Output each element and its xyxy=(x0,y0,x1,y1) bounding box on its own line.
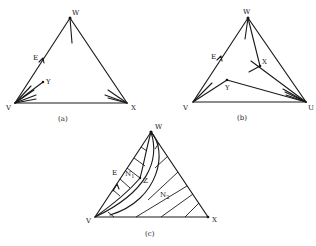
label-n2: N2 xyxy=(160,191,169,200)
hatch-n1 xyxy=(141,147,147,151)
label-e: E xyxy=(211,53,216,61)
label-n1: N1 xyxy=(125,170,134,179)
edge-y-u xyxy=(227,80,306,102)
arrow-e-icon xyxy=(217,56,222,61)
label-w: W xyxy=(72,9,80,17)
point-y-dot xyxy=(42,81,44,83)
label-v: V xyxy=(5,104,12,112)
edge-x-u xyxy=(251,61,306,102)
label-y: Y xyxy=(45,78,51,86)
fan-ray xyxy=(193,83,212,102)
panel-c: W V X E Z N1 N2 (c) xyxy=(85,123,217,238)
caption-a: (a) xyxy=(58,115,68,123)
panel-b: W V U E X Y (b) xyxy=(182,8,314,122)
label-v: V xyxy=(182,104,189,112)
label-y: Y xyxy=(224,84,230,92)
caption-c: (c) xyxy=(145,230,155,238)
label-z: Z xyxy=(143,177,148,185)
label-x: X xyxy=(262,58,267,66)
panel-a: W V X E Y (a) xyxy=(5,9,136,123)
label-e: E xyxy=(112,169,117,177)
hatch-n2 xyxy=(185,203,199,217)
edge-w-x xyxy=(248,18,260,66)
label-u: U xyxy=(308,104,314,112)
label-x: X xyxy=(212,216,217,224)
label-x: X xyxy=(131,104,136,112)
label-e: E xyxy=(33,54,38,62)
label-w: W xyxy=(243,8,251,16)
caption-b: (b) xyxy=(237,114,247,122)
vertex-x-dot xyxy=(207,216,210,219)
curve-w-z xyxy=(140,132,151,178)
edge-v-y xyxy=(193,80,227,102)
triangle-figure: W V X E Y (a) W V U E X Y (b) xyxy=(0,0,316,246)
spike-w xyxy=(70,18,72,43)
label-w: W xyxy=(155,123,163,131)
label-v: V xyxy=(85,217,92,225)
hatch-n2 xyxy=(155,156,168,168)
hatch-n1 xyxy=(113,190,120,196)
hatch-n1 xyxy=(120,179,130,188)
spike-x xyxy=(249,66,260,72)
